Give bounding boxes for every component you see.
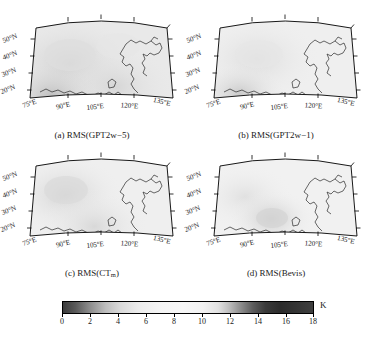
panel-caption-a: (a) RMS(GPT2w−5) (0, 130, 184, 140)
lon-tick-75e-c: 75°E (21, 236, 37, 248)
colorbar-label-2: 2 (88, 317, 92, 326)
lon-tick-75e-d: 75°E (205, 236, 221, 248)
lon-tick-120e-c: 120°E (120, 239, 138, 248)
panel-c: 50°N 40°N 30°N 20°N 75°E 90°E 105°E 120°… (0, 140, 184, 290)
map-c: 50°N 40°N 30°N 20°N 75°E 90°E 105°E 120°… (30, 148, 173, 246)
lon-tick-120e-a: 120°E (120, 101, 138, 110)
map-svg-b (214, 10, 357, 108)
lon-tick-120e-d: 120°E (304, 239, 322, 248)
lat-tick-30n-a: 30°N (1, 66, 18, 79)
lat-tick-30n-c: 30°N (1, 204, 18, 217)
panel-caption-c: (c) RMS(CTm) (0, 268, 184, 278)
colorbar-unit-label: K (320, 300, 327, 310)
figure-container: 50°N 40°N 30°N 20°N 75°E 90°E 105°E 120°… (0, 0, 368, 339)
colorbar-label-8: 8 (172, 317, 176, 326)
map-svg-a (30, 10, 173, 108)
lat-tick-20n-c: 20°N (0, 221, 16, 234)
lat-tick-40n-c: 40°N (2, 187, 19, 200)
map-svg-d (214, 148, 357, 246)
colorbar-label-6: 6 (144, 317, 148, 326)
colorbar-label-18: 18 (309, 317, 317, 326)
panel-caption-d: (d) RMS(Bevis) (184, 268, 368, 278)
lat-tick-20n-a: 20°N (0, 83, 16, 96)
panel-a: 50°N 40°N 30°N 20°N 75°E 90°E 105°E 120°… (0, 2, 184, 152)
colorbar-label-4: 4 (116, 317, 120, 326)
lat-tick-50n-b: 50°N (186, 32, 203, 45)
panel-b: 50°N 40°N 30°N 20°N 75°E 90°E 105°E 120°… (184, 2, 368, 152)
lat-tick-30n-b: 30°N (185, 66, 202, 79)
colorbar-label-16: 16 (282, 317, 290, 326)
colorbar-ticks: 0 2 4 6 8 10 12 14 16 18 (62, 314, 314, 328)
lon-tick-120e-b: 120°E (304, 101, 322, 110)
lon-tick-90e-c: 90°E (55, 238, 71, 249)
lat-tick-20n-b: 20°N (184, 83, 201, 96)
lon-tick-105e-b: 105°E (270, 102, 288, 112)
lat-tick-50n-d: 50°N (186, 170, 203, 183)
colorbar-label-10: 10 (198, 317, 206, 326)
lon-tick-90e-a: 90°E (55, 100, 71, 111)
lat-tick-40n-b: 40°N (186, 49, 203, 62)
lon-tick-90e-b: 90°E (239, 100, 255, 111)
lon-tick-90e-d: 90°E (239, 238, 255, 249)
lat-tick-20n-d: 20°N (184, 221, 201, 234)
colorbar-label-12: 12 (226, 317, 234, 326)
map-svg-c (30, 148, 173, 246)
lon-tick-105e-c: 105°E (86, 240, 104, 250)
colorbar-container: 0 2 4 6 8 10 12 14 16 18 (62, 301, 314, 314)
lat-tick-30n-d: 30°N (185, 204, 202, 217)
lat-tick-50n-c: 50°N (2, 170, 19, 183)
lat-tick-40n-a: 40°N (2, 49, 19, 62)
lon-tick-105e-a: 105°E (86, 102, 104, 112)
lon-tick-75e-a: 75°E (21, 98, 37, 110)
lon-tick-105e-d: 105°E (270, 240, 288, 250)
colorbar-gradient (62, 301, 314, 314)
panel-caption-c-main: (c) RMS(CT (65, 268, 111, 278)
colorbar-label-14: 14 (254, 317, 262, 326)
lat-tick-40n-d: 40°N (186, 187, 203, 200)
lat-tick-50n-a: 50°N (2, 32, 19, 45)
map-b: 50°N 40°N 30°N 20°N 75°E 90°E 105°E 120°… (214, 10, 357, 108)
panel-d: 50°N 40°N 30°N 20°N 75°E 90°E 105°E 120°… (184, 140, 368, 290)
map-d: 50°N 40°N 30°N 20°N 75°E 90°E 105°E 120°… (214, 148, 357, 246)
map-a: 50°N 40°N 30°N 20°N 75°E 90°E 105°E 120°… (30, 10, 173, 108)
panel-caption-b: (b) RMS(GPT2w−1) (184, 130, 368, 140)
panel-caption-c-suffix: ) (116, 268, 119, 278)
lon-tick-75e-b: 75°E (205, 98, 221, 110)
colorbar-label-0: 0 (60, 317, 64, 326)
